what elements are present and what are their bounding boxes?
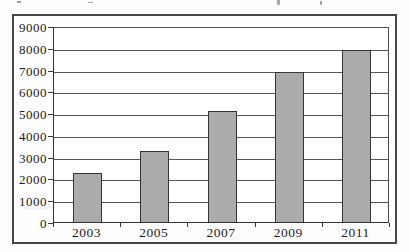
y-tick-label-9000: 9000 bbox=[19, 21, 47, 34]
plot-area bbox=[53, 27, 389, 223]
gridline-8000 bbox=[54, 50, 388, 51]
y-tick-label-1000: 1000 bbox=[19, 195, 47, 208]
x-tick-label-2007: 2007 bbox=[187, 226, 254, 240]
x-tick-label-2003: 2003 bbox=[53, 226, 120, 240]
gridline-7000 bbox=[54, 72, 388, 73]
y-tick-label-4000: 4000 bbox=[19, 129, 47, 142]
y-tick-label-5000: 5000 bbox=[19, 108, 47, 121]
bar-2011 bbox=[342, 50, 371, 222]
cropped-caption-remnant bbox=[17, 1, 21, 3]
gridline-6000 bbox=[54, 93, 388, 94]
x-tick-label-2005: 2005 bbox=[120, 226, 187, 240]
bar-2005 bbox=[140, 151, 169, 222]
bar-2003 bbox=[73, 173, 102, 222]
bar-2007 bbox=[208, 111, 237, 222]
cropped-caption-remnant bbox=[320, 1, 322, 5]
bar-2009 bbox=[275, 72, 304, 222]
cropped-caption-remnant bbox=[88, 2, 93, 3]
x-tick-label-2011: 2011 bbox=[322, 226, 389, 240]
y-tick-label-7000: 7000 bbox=[19, 64, 47, 77]
x-tick-label-2009: 2009 bbox=[255, 226, 322, 240]
y-tick-label-2000: 2000 bbox=[19, 173, 47, 186]
scanned-figure-page: 0100020003000400050006000700080009000 20… bbox=[0, 0, 410, 252]
y-axis-labels: 0100020003000400050006000700080009000 bbox=[0, 27, 47, 223]
y-tick-label-6000: 6000 bbox=[19, 86, 47, 99]
y-tick-label-3000: 3000 bbox=[19, 151, 47, 164]
y-tick-label-8000: 8000 bbox=[19, 42, 47, 55]
x-axis-labels: 20032005200720092011 bbox=[53, 226, 389, 242]
cropped-caption-remnant bbox=[277, 0, 280, 5]
y-tick-label-0: 0 bbox=[40, 217, 47, 230]
